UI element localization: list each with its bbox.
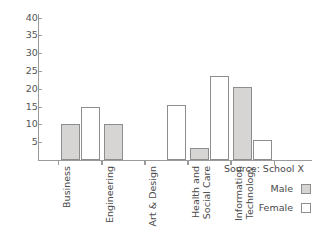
y-axis-tick-mark: [38, 71, 42, 72]
x-axis-label-business: Business: [62, 166, 73, 208]
legend-swatch-female: [301, 203, 311, 213]
y-axis-tick-mark: [38, 18, 42, 19]
x-axis-tick-mark: [230, 161, 231, 165]
x-axis-label-health-and-social-care: Health and: [191, 166, 202, 218]
legend-swatch-male: [301, 184, 311, 194]
y-axis-tick-mark: [38, 53, 42, 54]
y-axis-tick-mark: [38, 89, 42, 90]
legend-entry-female: Female: [224, 202, 319, 213]
x-axis-tick-mark: [58, 161, 59, 165]
x-axis-label-art-design: Art & Design: [148, 166, 159, 226]
x-axis-label-health-and-social-care: Social Care: [202, 166, 213, 219]
x-axis-tick-mark: [102, 161, 103, 165]
y-axis-tick-mark: [38, 124, 42, 125]
legend-entry-group: MaleFemale: [224, 183, 319, 213]
x-axis-label-engineering: Engineering: [105, 166, 116, 223]
chart-legend: Source: School X MaleFemale: [224, 163, 319, 221]
legend-source-note: Source: School X: [224, 163, 319, 174]
bar-chart: 510152025303540 BusinessEngineeringArt &…: [0, 0, 319, 234]
x-axis-tick-mark: [144, 161, 145, 165]
legend-label-male: Male: [270, 183, 293, 194]
x-axis-tick-mark: [101, 161, 102, 165]
x-axis-tick-mark: [274, 161, 275, 165]
legend-entry-male: Male: [224, 183, 319, 194]
x-axis-tick-mark: [231, 161, 232, 165]
x-axis-tick-mark: [187, 161, 188, 165]
y-axis-tick-mark: [38, 107, 42, 108]
y-axis-tick-mark: [38, 35, 42, 36]
x-axis-tick-mark: [145, 161, 146, 165]
x-axis-tick-mark: [188, 161, 189, 165]
y-axis-tick-mark: [38, 142, 42, 143]
legend-label-female: Female: [259, 202, 293, 213]
